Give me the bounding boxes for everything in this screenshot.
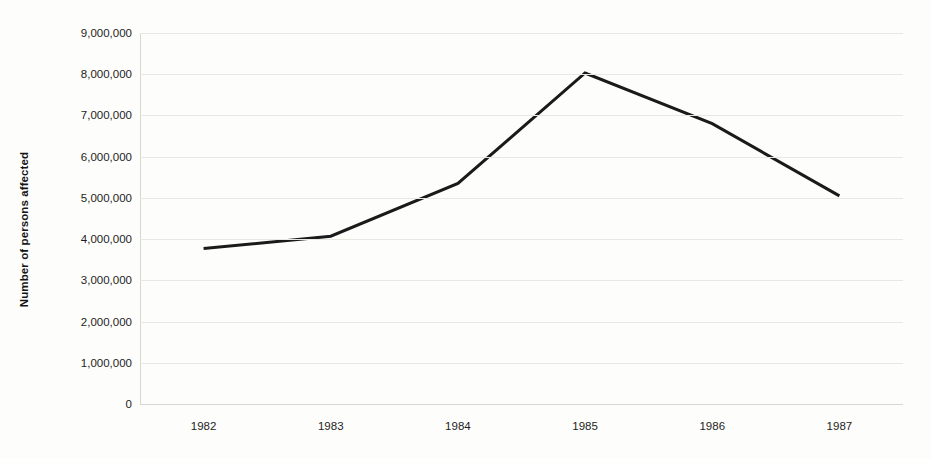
gridline	[140, 280, 903, 281]
gridline	[140, 404, 903, 405]
x-tick-label: 1987	[799, 420, 879, 432]
gridline	[140, 239, 903, 240]
x-tick-label: 1983	[291, 420, 371, 432]
gridline	[140, 198, 903, 199]
x-tick-label: 1986	[672, 420, 752, 432]
y-tick-label: 4,000,000	[10, 233, 132, 245]
gridline	[140, 322, 903, 323]
series-polyline	[204, 73, 840, 249]
x-tick-label: 1985	[545, 420, 625, 432]
gridline	[140, 363, 903, 364]
x-tick-label: 1982	[164, 420, 244, 432]
y-tick-label: 3,000,000	[10, 274, 132, 286]
plot-area	[140, 33, 903, 404]
y-tick-label: 8,000,000	[10, 68, 132, 80]
series-line-number-of-persons-affected	[140, 33, 903, 404]
y-tick-label: 9,000,000	[10, 27, 132, 39]
y-tick-label: 0	[10, 398, 132, 410]
y-tick-label: 2,000,000	[10, 316, 132, 328]
y-tick-label: 6,000,000	[10, 151, 132, 163]
gridline	[140, 33, 903, 34]
y-tick-label: 7,000,000	[10, 109, 132, 121]
gridline	[140, 115, 903, 116]
y-tick-label: 5,000,000	[10, 192, 132, 204]
line-chart: Number of persons affected 01,000,0002,0…	[0, 0, 931, 459]
y-tick-label: 1,000,000	[10, 357, 132, 369]
y-axis-tick-labels: 01,000,0002,000,0003,000,0004,000,0005,0…	[0, 0, 132, 459]
x-axis-tick-labels: 198219831984198519861987	[140, 420, 903, 440]
gridline	[140, 74, 903, 75]
gridline	[140, 157, 903, 158]
x-tick-label: 1984	[418, 420, 498, 432]
